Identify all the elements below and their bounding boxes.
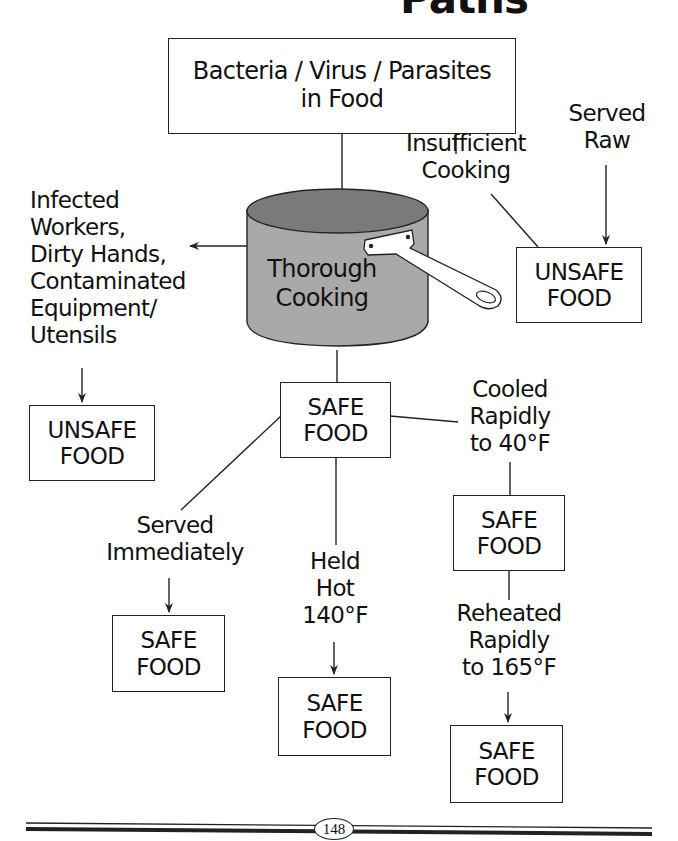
served-immediately-label: Served Immediately	[100, 512, 250, 566]
reheated-line-1: Reheated	[445, 600, 573, 627]
safe-cooled-line-1: SAFE	[481, 507, 537, 533]
held-hot-label: Held Hot 140°F	[290, 548, 380, 629]
safe-food-box-cooled: SAFE FOOD	[453, 495, 565, 571]
held-line-2: Hot	[290, 575, 380, 602]
safe-center-line-1: SAFE	[307, 394, 363, 420]
safe-food-box-served: SAFE FOOD	[112, 615, 225, 692]
source-line-2: in Food	[301, 86, 384, 114]
contamination-line-1: Infected	[30, 187, 210, 214]
unsafe-right-line-2: FOOD	[547, 285, 612, 311]
contamination-line-4: Contaminated	[30, 268, 210, 295]
served-imm-line-1: Served	[100, 512, 250, 539]
safe-held-line-2: FOOD	[302, 717, 367, 743]
unsafe-right-line-1: UNSAFE	[535, 259, 624, 285]
safe-held-line-1: SAFE	[306, 690, 362, 716]
served-raw-label: Served Raw	[560, 100, 654, 154]
cooking-line-2: Cooking	[262, 284, 382, 313]
cooled-rapidly-label: Cooled Rapidly to 40°F	[455, 376, 565, 457]
safe-reheated-line-2: FOOD	[474, 764, 539, 790]
unsafe-left-line-1: UNSAFE	[48, 417, 137, 443]
reheated-rapidly-label: Reheated Rapidly to 165°F	[445, 600, 573, 681]
safe-center-line-2: FOOD	[303, 420, 368, 446]
cooking-line-1: Thorough	[262, 255, 382, 284]
safe-cooled-line-2: FOOD	[477, 533, 542, 559]
unsafe-food-box-right: UNSAFE FOOD	[516, 247, 642, 323]
contamination-line-6: Utensils	[30, 322, 210, 349]
contamination-line-5: Equipment/	[30, 295, 210, 322]
cooled-line-2: Rapidly	[455, 403, 565, 430]
reheated-line-3: to 165°F	[445, 654, 573, 681]
served-raw-line-1: Served	[560, 100, 654, 127]
edge-safe-served	[181, 416, 281, 510]
unsafe-left-line-2: FOOD	[60, 443, 125, 469]
source-node: Bacteria / Virus / Parasites in Food	[168, 38, 516, 134]
unsafe-food-box-left: UNSAFE FOOD	[29, 405, 155, 481]
insufficient-cooking-label: Insufficient Cooking	[396, 130, 536, 184]
contamination-line-3: Dirty Hands,	[30, 241, 210, 268]
thorough-cooking-label: Thorough Cooking	[262, 255, 382, 313]
insufficient-line-1: Insufficient	[396, 130, 536, 157]
held-line-1: Held	[290, 548, 380, 575]
safe-served-line-2: FOOD	[136, 654, 201, 680]
contamination-cause-label: Infected Workers, Dirty Hands, Contamina…	[30, 187, 210, 348]
source-line-1: Bacteria / Virus / Parasites	[193, 58, 491, 86]
safe-food-box-reheated: SAFE FOOD	[450, 725, 563, 803]
cooled-line-1: Cooled	[455, 376, 565, 403]
edge-insufficient-unsafe	[491, 194, 538, 247]
held-line-3: 140°F	[290, 602, 380, 629]
insufficient-line-2: Cooking	[396, 157, 536, 184]
safe-reheated-line-1: SAFE	[478, 738, 534, 764]
served-imm-line-2: Immediately	[100, 539, 250, 566]
safe-served-line-1: SAFE	[140, 627, 196, 653]
edge-safe-cooled	[390, 416, 458, 422]
served-raw-line-2: Raw	[560, 127, 654, 154]
cooled-line-3: to 40°F	[455, 430, 565, 457]
reheated-line-2: Rapidly	[445, 627, 573, 654]
page-number: 148	[314, 818, 354, 840]
safe-food-box-held: SAFE FOOD	[278, 677, 391, 756]
contamination-line-2: Workers,	[30, 214, 210, 241]
safe-food-box-center: SAFE FOOD	[280, 382, 391, 458]
